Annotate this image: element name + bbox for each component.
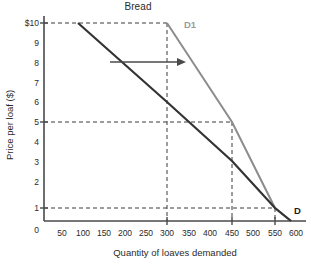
y-axis-title: Price per loaf ($) <box>4 90 15 160</box>
x-tick-label: 200 <box>118 228 132 238</box>
y-tick-label: 6 <box>34 97 39 107</box>
x-axis-title: Quantity of loaves demanded <box>113 247 237 258</box>
x-tick-label: 600 <box>289 228 303 238</box>
y-tick-label: 2 <box>34 177 39 187</box>
x-tick-label: 550 <box>268 228 282 238</box>
y-tick-label: 3 <box>34 157 39 167</box>
y-tick-label: $10 <box>25 18 39 28</box>
y-tick-label: 8 <box>34 58 39 68</box>
x-tick-labels: 50 100 150 200 250 300 350 400 450 500 5… <box>57 228 303 238</box>
x-tick-label: 100 <box>76 228 90 238</box>
guide-lines <box>44 23 275 221</box>
demand-curve-plot: Price per loaf ($) $10 9 8 7 6 5 4 3 2 1… <box>0 0 311 266</box>
x-tick-label: 450 <box>225 228 239 238</box>
y-tick-label: 4 <box>34 137 39 147</box>
x-tick-label: 400 <box>203 228 217 238</box>
x-tick-label: 150 <box>97 228 111 238</box>
shift-right-arrow <box>110 58 186 66</box>
x-tick-label: 50 <box>57 228 67 238</box>
y-tick-label: 0 <box>34 225 39 235</box>
chart-container: Bread Price per loaf ($) $10 9 8 7 6 5 4… <box>0 0 311 266</box>
x-tick-label: 250 <box>139 228 153 238</box>
x-tick-label: 500 <box>246 228 260 238</box>
y-tick-label: 1 <box>34 203 39 213</box>
x-tick-label: 350 <box>182 228 196 238</box>
curve-label-d: D <box>294 205 301 216</box>
y-tick-label: 5 <box>34 117 39 127</box>
x-tick-label: 300 <box>160 228 174 238</box>
y-tick-label: 7 <box>34 78 39 88</box>
curve-label-d1: D1 <box>184 19 197 30</box>
y-tick-labels: $10 9 8 7 6 5 4 3 2 1 0 <box>25 18 39 235</box>
y-tick-label: 9 <box>34 38 39 48</box>
axis-tick-marks <box>40 23 275 225</box>
